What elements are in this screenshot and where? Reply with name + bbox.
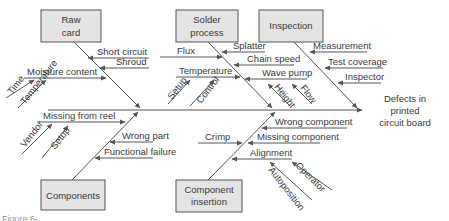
svg-text:Chain speed: Chain speed <box>247 53 300 64</box>
category-components: Components Missing from reel Wrong part … <box>18 110 176 210</box>
svg-text:circuit board: circuit board <box>379 117 431 128</box>
svg-text:Test coverage: Test coverage <box>328 56 387 67</box>
fishbone-diagram: Defects in printed circuit board Raw car… <box>0 0 449 221</box>
svg-text:Missing component: Missing component <box>257 131 339 142</box>
svg-text:Components: Components <box>46 190 100 201</box>
svg-text:Component: Component <box>184 184 233 195</box>
figure-caption: Figure 6-... <box>2 214 46 221</box>
svg-text:Inspection: Inspection <box>269 20 312 31</box>
svg-text:Shroud: Shroud <box>116 56 147 67</box>
svg-text:Setup: Setup <box>48 125 72 151</box>
svg-text:card: card <box>62 27 80 38</box>
svg-text:Solder: Solder <box>193 14 220 25</box>
svg-text:Functional failure: Functional failure <box>104 146 176 157</box>
svg-text:Inspector: Inspector <box>345 71 384 82</box>
svg-text:Wave pump: Wave pump <box>262 67 312 78</box>
svg-text:insertion: insertion <box>191 196 227 207</box>
svg-text:Raw: Raw <box>61 14 80 25</box>
svg-text:Flux: Flux <box>177 45 195 56</box>
effect-label: Defects in printed circuit board <box>379 93 431 128</box>
svg-text:Measurement: Measurement <box>313 40 371 51</box>
svg-text:Missing from reel: Missing from reel <box>43 110 115 121</box>
svg-text:process: process <box>190 27 224 38</box>
svg-text:Defects in: Defects in <box>384 93 426 104</box>
svg-text:printed: printed <box>390 105 419 116</box>
svg-text:Setup: Setup <box>165 75 189 101</box>
svg-text:Wrong component: Wrong component <box>275 116 353 127</box>
svg-text:Crimp: Crimp <box>205 131 230 142</box>
svg-text:Temperature: Temperature <box>179 65 232 76</box>
svg-text:Wrong part: Wrong part <box>122 130 169 141</box>
svg-text:Control: Control <box>194 74 222 105</box>
svg-text:Alignment: Alignment <box>250 147 293 158</box>
svg-text:Operator: Operator <box>294 160 328 194</box>
category-raw-card: Raw card Short circuit Shroud Moisture c… <box>5 10 149 108</box>
category-component-insertion: Component insertion Wrong component Crim… <box>176 112 353 212</box>
